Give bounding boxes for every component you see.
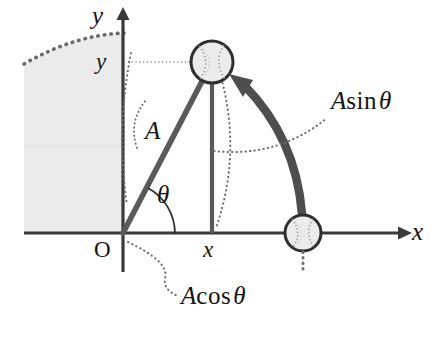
a-sin-theta-label: Asin θ [331,88,391,113]
a-sin-theta-amplitude: A [331,87,346,114]
origin-label: O [94,238,111,261]
x-value-tick-label: x [203,238,213,261]
x-axis-label: x [412,219,423,244]
a-sin-theta-function: sin [346,87,377,114]
a-cos-theta-label: Acos θ [181,283,245,308]
a-sin-theta-argument: θ [379,87,391,114]
dotted-projection-arc-right [216,70,230,228]
curved-motion-arrow [229,74,302,214]
a-cos-theta-amplitude: A [181,282,196,309]
y-axis-label: y [92,3,103,28]
ball-at-x-axis [285,215,321,251]
y-value-tick-label: y [96,50,106,73]
physics-diagram: y x y x O A θ Asin θ Acos θ [0,0,441,339]
amplitude-label: A [145,118,160,143]
ball-at-angle [191,41,233,83]
a-cos-theta-function: cos [196,282,231,309]
a-cos-theta-argument: θ [233,282,245,309]
leader-line-a-cos-theta [128,242,178,296]
theta-angle-label: θ [157,182,169,207]
shaded-background-region [24,33,123,233]
